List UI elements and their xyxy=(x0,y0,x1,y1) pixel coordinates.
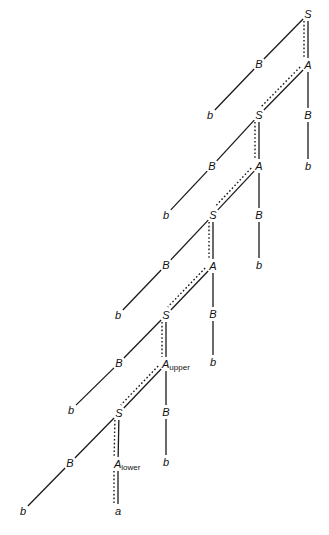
node-b: b xyxy=(68,404,74,416)
highlighted-path-segment xyxy=(261,67,300,107)
parse-tree-diagram: SBAbSBbBAbSBbBAbSBbBAupperbSBbBAlowerba xyxy=(0,0,329,535)
node-B: B xyxy=(115,357,122,369)
tree-edge xyxy=(171,171,207,210)
node-subscript: lower xyxy=(121,463,140,472)
tree-edge xyxy=(215,69,254,110)
node-S: S xyxy=(255,109,263,121)
tree-edge xyxy=(171,271,208,310)
tree-edge xyxy=(124,320,161,358)
tree-edge xyxy=(264,70,303,110)
highlighted-path-segment xyxy=(121,366,158,405)
node-A: A xyxy=(208,260,216,272)
node-B: B xyxy=(304,109,311,121)
highlighted-path-segment xyxy=(168,268,205,307)
tree-edge xyxy=(218,171,254,210)
tree-edge xyxy=(76,368,114,405)
node-A: A xyxy=(254,160,262,172)
node-S: S xyxy=(115,407,123,419)
tree-edge xyxy=(123,270,161,310)
node-b: b xyxy=(210,356,216,368)
node-S: S xyxy=(162,309,170,321)
node-B: B xyxy=(66,457,73,469)
node-B: B xyxy=(162,406,169,418)
tree-edge xyxy=(264,19,303,59)
node-A-lower: Alower xyxy=(113,458,141,472)
node-b: b xyxy=(256,259,262,271)
node-A: A xyxy=(303,59,311,71)
node-b: b xyxy=(163,456,169,468)
node-b: b xyxy=(305,160,311,172)
node-B: B xyxy=(162,259,169,271)
node-B: B xyxy=(208,160,215,172)
node-b: b xyxy=(163,209,169,221)
node-B: B xyxy=(255,209,262,221)
highlighted-path-segment xyxy=(215,168,251,207)
node-b: b xyxy=(207,109,213,121)
tree-edge xyxy=(28,468,65,506)
node-subscript: upper xyxy=(169,363,190,372)
node-a: a xyxy=(115,505,121,517)
highlighted-path-segment xyxy=(114,420,115,457)
node-S: S xyxy=(209,209,217,221)
node-B: B xyxy=(255,58,262,70)
node-S: S xyxy=(304,8,312,20)
node-b: b xyxy=(115,309,121,321)
node-b: b xyxy=(20,505,26,517)
tree-edge xyxy=(118,420,119,457)
node-B: B xyxy=(209,308,216,320)
tree-edge xyxy=(171,220,208,260)
node-A-upper: Aupper xyxy=(161,358,190,372)
tree-edge xyxy=(124,369,161,408)
tree-edge xyxy=(75,418,114,458)
tree-edge xyxy=(217,120,255,161)
